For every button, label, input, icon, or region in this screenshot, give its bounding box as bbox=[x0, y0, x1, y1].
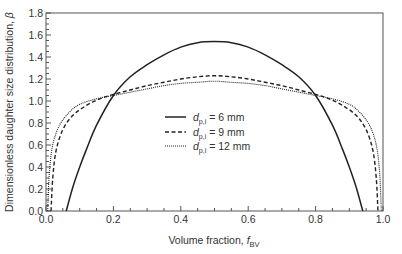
y-tick-label: 0.2 bbox=[28, 183, 43, 195]
x-axis-ticks: 0.00.20.40.60.81.0 bbox=[39, 206, 391, 225]
y-tick-label: 0.4 bbox=[28, 161, 43, 173]
x-tick-label: 0.4 bbox=[173, 213, 188, 225]
y-tick-label: 0.8 bbox=[28, 117, 43, 129]
y-tick-label: 1.8 bbox=[28, 7, 43, 19]
y-tick-label: 0.6 bbox=[28, 139, 43, 151]
y-tick-label: 0.0 bbox=[28, 205, 43, 217]
y-axis-ticks: 0.00.20.40.60.81.01.21.41.61.8 bbox=[28, 7, 51, 217]
x-axis-label-sub: BV bbox=[250, 240, 260, 249]
y-axis-label-var: β bbox=[3, 12, 15, 19]
y-tick-label: 1.4 bbox=[28, 51, 43, 63]
legend-label-3: dp,i = 12 mm bbox=[193, 140, 251, 155]
legend-label-2: dp,i = 9 mm bbox=[193, 126, 245, 141]
x-tick-label: 0.6 bbox=[241, 213, 256, 225]
x-axis-label: Volume fraction, fBV bbox=[168, 234, 259, 249]
chart-canvas: Dimensionless daughter size distribution… bbox=[0, 0, 402, 254]
y-axis-label-main: Dimensionless daughter size distribution… bbox=[3, 18, 15, 212]
x-tick-label: 0.2 bbox=[106, 213, 121, 225]
legend: dp,i = 6 mmdp,i = 9 mmdp,i = 12 mm bbox=[165, 111, 251, 155]
y-axis-label: Dimensionless daughter size distribution… bbox=[3, 12, 15, 212]
y-tick-label: 1.2 bbox=[28, 73, 43, 85]
y-tick-label: 1.6 bbox=[28, 29, 43, 41]
y-tick-label: 1.0 bbox=[28, 95, 43, 107]
x-tick-label: 0.8 bbox=[308, 213, 323, 225]
svg-text:Dimensionless daughter size di: Dimensionless daughter size distribution… bbox=[3, 12, 15, 212]
x-tick-label: 1.0 bbox=[376, 213, 391, 225]
legend-label-1: dp,i = 6 mm bbox=[193, 111, 245, 126]
x-axis-label-main: Volume fraction, bbox=[168, 234, 246, 246]
svg-text:Volume fraction, fBV: Volume fraction, fBV bbox=[168, 234, 259, 249]
